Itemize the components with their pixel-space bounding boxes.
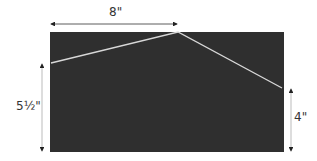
left-height-label: 5½" [16, 99, 41, 113]
panel [50, 32, 284, 152]
top-width-label: 8" [109, 5, 122, 19]
diagram-canvas [0, 0, 317, 161]
right-height-label: 4" [294, 110, 307, 124]
